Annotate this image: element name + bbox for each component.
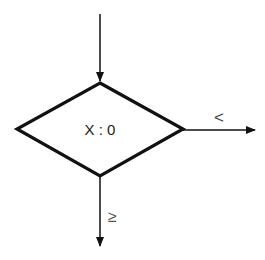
flowchart-shapes — [0, 0, 265, 260]
flowchart-canvas: X : 0 < ≥ — [0, 0, 265, 260]
decision-condition-label: X : 0 — [85, 122, 116, 137]
branch-label-greater-equal: ≥ — [108, 209, 117, 225]
branch-label-less-than: < — [214, 109, 224, 126]
